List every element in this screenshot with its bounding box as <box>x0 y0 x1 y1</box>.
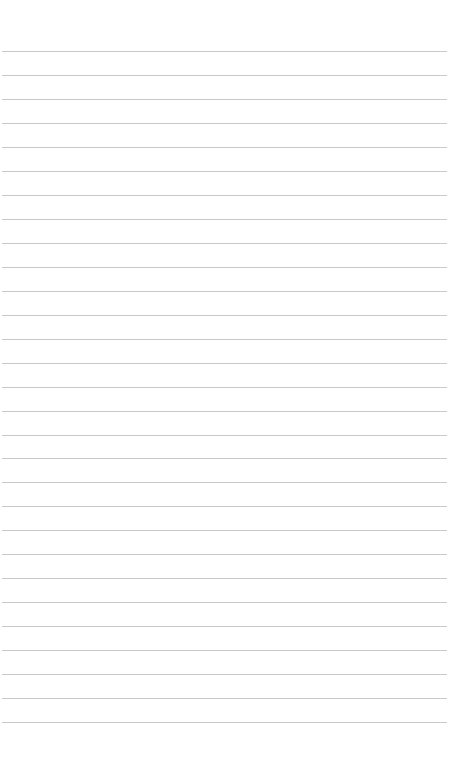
ruled-line <box>2 698 447 699</box>
ruled-line <box>2 291 447 292</box>
ruled-line <box>2 195 447 196</box>
ruled-line <box>2 554 447 555</box>
ruled-line <box>2 219 447 220</box>
ruled-line <box>2 339 447 340</box>
ruled-line <box>2 674 447 675</box>
ruled-line <box>2 458 447 459</box>
ruled-line <box>2 626 447 627</box>
ruled-line <box>2 267 447 268</box>
lined-paper-page <box>0 0 466 770</box>
ruled-line <box>2 315 447 316</box>
ruled-line <box>2 411 447 412</box>
ruled-line <box>2 123 447 124</box>
ruled-line <box>2 99 447 100</box>
ruled-line <box>2 650 447 651</box>
ruled-line <box>2 530 447 531</box>
ruled-line <box>2 75 447 76</box>
ruled-line <box>2 147 447 148</box>
ruled-line <box>2 51 447 52</box>
ruled-line <box>2 435 447 436</box>
ruled-line <box>2 602 447 603</box>
ruled-line <box>2 363 447 364</box>
ruled-line <box>2 722 447 723</box>
ruled-line <box>2 482 447 483</box>
ruled-line <box>2 387 447 388</box>
ruled-line <box>2 243 447 244</box>
ruled-line <box>2 506 447 507</box>
ruled-line <box>2 578 447 579</box>
ruled-line <box>2 171 447 172</box>
